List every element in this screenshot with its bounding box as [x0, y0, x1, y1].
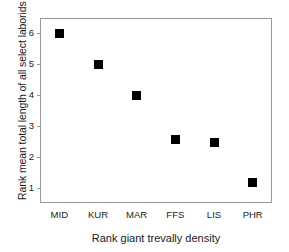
- data-point-marker: [248, 178, 257, 187]
- data-point-marker: [171, 135, 180, 144]
- y-tick-mark: [37, 95, 40, 96]
- x-tick-label: FFS: [153, 209, 197, 220]
- y-tick-mark: [37, 188, 40, 189]
- y-tick-label: 6: [18, 28, 34, 38]
- x-tick-label: MAR: [115, 209, 159, 220]
- y-tick-mark: [37, 33, 40, 34]
- data-point-marker: [210, 138, 219, 147]
- x-axis-title: Rank giant trevally density: [40, 232, 272, 244]
- scatter-plot-figure: Rank mean total length of all select lab…: [0, 0, 289, 252]
- x-tick-label: PHR: [231, 209, 275, 220]
- y-tick-label: 1: [18, 183, 34, 193]
- y-tick-mark: [37, 157, 40, 158]
- x-tick-label: KUR: [76, 209, 120, 220]
- y-tick-mark: [37, 126, 40, 127]
- plot-area: [40, 18, 272, 203]
- data-point-marker: [94, 60, 103, 69]
- y-tick-label: 5: [18, 59, 34, 69]
- y-tick-mark: [37, 64, 40, 65]
- y-tick-label: 3: [18, 121, 34, 131]
- data-point-marker: [55, 29, 64, 38]
- y-tick-label: 4: [18, 90, 34, 100]
- y-tick-label: 2: [18, 152, 34, 162]
- data-point-marker: [132, 91, 141, 100]
- x-tick-label: LIS: [192, 209, 236, 220]
- x-tick-label: MID: [37, 209, 81, 220]
